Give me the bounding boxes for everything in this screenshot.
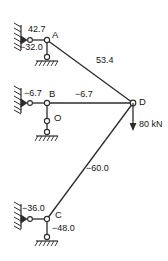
force-label-42-7: 42.7 (28, 25, 46, 34)
joint-B (44, 100, 49, 105)
joint-A (44, 37, 49, 42)
force-label-neg-48-0: −48.0 (52, 224, 75, 233)
node-label-O: O (54, 113, 61, 123)
node-label-D: D (139, 97, 146, 107)
force-label-neg-6-7-left: −6.7 (24, 89, 42, 98)
force-label-neg-6-7-right: −6.7 (75, 90, 93, 99)
joint-wall-C (28, 217, 33, 222)
node-label-C: C (55, 210, 62, 220)
truss-graphics (0, 0, 168, 261)
node-label-B: B (49, 89, 55, 99)
node-label-A: A (52, 30, 58, 40)
joint-C (44, 216, 49, 221)
force-label-53-4: 53.4 (96, 56, 114, 65)
force-label-neg-36-0: −36.0 (22, 204, 45, 213)
roller-support-A (35, 54, 58, 66)
joint-wall-B (28, 101, 33, 106)
force-label-neg-32-0: −32.0 (20, 43, 43, 52)
truss-diagram: 42.7 A −32.0 53.4 −6.7 B −6.7 D O 80 kN … (0, 0, 168, 261)
load-label-80kN: 80 kN (139, 120, 163, 129)
roller-support-C (35, 234, 58, 246)
force-label-neg-60-0: −60.0 (86, 164, 109, 173)
